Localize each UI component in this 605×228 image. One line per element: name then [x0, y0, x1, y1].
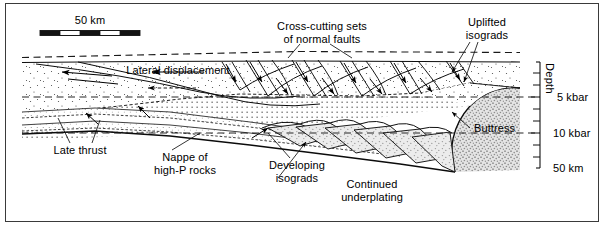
lateral-displacement-label: Lateral displacement — [126, 64, 230, 77]
developing-isograds-label-line2: isograds — [276, 172, 318, 185]
uplifted-isograds-label-line2: isograds — [466, 29, 508, 42]
scale-bar-label: 50 km — [40, 14, 140, 27]
depth-axis-ticks — [531, 73, 540, 157]
pre-extension-surface-dashed — [22, 52, 520, 58]
scale-bar — [40, 31, 140, 36]
uplifted-isograds-label-line1: Uplifted — [468, 16, 506, 29]
depth-tick-label-10kbar: 10 kbar — [553, 127, 590, 140]
cross-cutting-label-line2: of normal faults — [284, 33, 361, 46]
geological-cross-section-figure: 50 km Cross-cutting sets of normal fault… — [0, 0, 605, 228]
continued-underplating-label-line1: Continued — [346, 178, 397, 191]
depth-tick-label-5kbar: 5 kbar — [557, 91, 588, 104]
continued-underplating-label-line2: underplating — [341, 191, 403, 204]
buttress-label: Buttress — [474, 122, 515, 135]
nappe-label-line2: high-P rocks — [154, 164, 216, 177]
depth-tick-label-50km: 50 km — [553, 162, 583, 175]
developing-isograds-label-line1: Developing — [269, 159, 325, 172]
nappe-label-line1: Nappe of — [162, 151, 207, 164]
late-thrust-label: Late thrust — [53, 144, 106, 157]
depth-axis-title: Depth — [543, 63, 556, 94]
cross-cutting-label-line1: Cross-cutting sets — [277, 20, 367, 33]
